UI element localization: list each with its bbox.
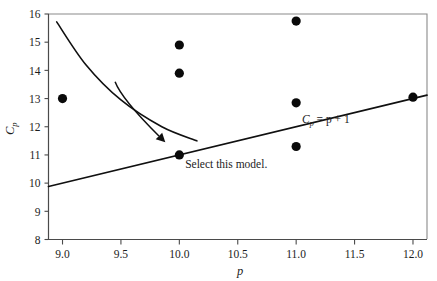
x-axis-title: p: [236, 264, 243, 278]
data-point: [58, 94, 67, 103]
y-tick-label: 9: [35, 206, 41, 218]
data-point: [408, 93, 417, 102]
svg-text:p: p: [236, 264, 243, 278]
y-tick-label: 16: [29, 8, 41, 20]
reference-curve: [57, 22, 197, 141]
chart-figure: 8910111213141516 9.09.510.010.511.011.51…: [0, 0, 437, 281]
data-points-group: [58, 16, 418, 159]
x-tick-label: 9.0: [55, 248, 70, 260]
data-point: [292, 16, 301, 25]
svg-text:Select this model.: Select this model.: [185, 158, 267, 170]
fit-line: [49, 95, 428, 186]
annotation-text: Select this model.: [185, 158, 267, 170]
y-axis-title: Cp: [3, 122, 19, 135]
y-axis-ticks: 8910111213141516: [29, 8, 49, 246]
data-point: [292, 142, 301, 151]
x-tick-label: 12.0: [403, 248, 423, 260]
data-point: [292, 98, 301, 107]
x-tick-label: 10.5: [228, 248, 248, 260]
x-tick-label: 10.0: [169, 248, 189, 260]
chart-canvas: 8910111213141516 9.09.510.010.511.011.51…: [0, 0, 437, 281]
y-tick-label: 14: [29, 65, 41, 77]
x-tick-label: 9.5: [114, 248, 129, 260]
data-point: [175, 69, 184, 78]
data-point: [175, 40, 184, 49]
y-tick-label: 8: [35, 234, 41, 246]
y-tick-label: 10: [29, 177, 41, 189]
plot-axes: [49, 14, 428, 240]
y-tick-label: 13: [29, 93, 41, 105]
annotation-arrow: [115, 82, 165, 143]
x-tick-label: 11.5: [345, 248, 365, 260]
y-tick-label: 12: [29, 121, 41, 133]
x-axis-ticks: 9.09.510.010.511.011.512.0: [55, 240, 423, 260]
y-tick-label: 11: [29, 149, 40, 161]
svg-text:Cp = p + 1: Cp = p + 1: [302, 113, 350, 128]
equation-label: Cp = p + 1: [302, 113, 350, 128]
y-tick-label: 15: [29, 36, 41, 48]
svg-text:Cp: Cp: [3, 122, 19, 135]
plot-frame: [48, 14, 427, 239]
data-point: [175, 150, 184, 159]
x-tick-label: 11.0: [286, 248, 306, 260]
